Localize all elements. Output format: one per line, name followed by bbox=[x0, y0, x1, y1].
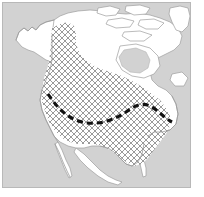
figure-root bbox=[0, 0, 204, 197]
map-svg bbox=[2, 2, 191, 188]
map-frame bbox=[2, 2, 191, 188]
